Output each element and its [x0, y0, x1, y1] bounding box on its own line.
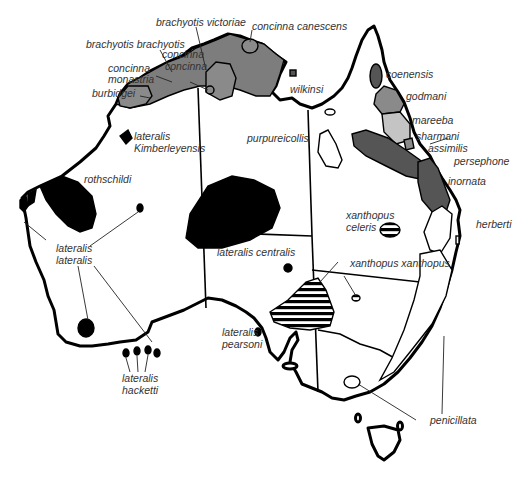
tasmania	[368, 426, 400, 460]
label-xanthopus-xanthopus: xanthopus xanthopus	[349, 257, 451, 269]
region-wilkinsi	[290, 70, 296, 76]
label-lateralis-lateralis-1: lateralis	[56, 242, 93, 254]
label-brachyotis-victoriae: brachyotis victoriae	[156, 16, 246, 28]
label-lateralis-centralis: lateralis centralis	[217, 246, 296, 258]
region-hacketti-2	[134, 347, 140, 355]
label-burbidgei: burbidgei	[92, 87, 136, 99]
region-small-outline	[325, 109, 335, 115]
label-lateralis-kimberleyensis-1: lateralis	[134, 130, 171, 142]
region-lateralis-sw	[78, 319, 94, 337]
island-flinders	[398, 422, 403, 430]
island-kangaroo	[283, 363, 297, 369]
region-hacketti-1	[123, 349, 129, 357]
label-lateralis-hacketti-1: lateralis	[122, 372, 159, 384]
label-lateralis-kimberleyensis-2: Kimberleyensis	[134, 142, 206, 154]
island-king	[356, 414, 361, 422]
label-penicillata: penicillata	[429, 414, 477, 426]
label-wilkinsi: wilkinsi	[290, 83, 324, 95]
region-hacketti-4	[154, 349, 160, 357]
region-penicillata-vic	[344, 376, 360, 388]
region-sharmani	[404, 138, 414, 150]
label-persephone: persephone	[453, 155, 510, 167]
label-herberti: herberti	[476, 218, 512, 230]
australia-distribution-map: brachyotis victoriae concinna canescens …	[0, 0, 528, 486]
label-xanthopus-celeris-2: celeris	[346, 221, 377, 233]
label-mareeba: mareeba	[412, 114, 454, 126]
label-sharmani: sharmani	[416, 130, 460, 142]
region-coenensis	[370, 64, 382, 88]
label-godmani: godmani	[406, 90, 447, 102]
region-xanthopus-celeris	[380, 223, 400, 237]
region-lateralis-small	[137, 204, 143, 212]
region-herberti-small	[456, 236, 459, 244]
label-coenensis: coenensis	[386, 68, 434, 80]
label-inornata: inornata	[448, 175, 486, 187]
label-purpureicollis: purpureicollis	[246, 132, 310, 144]
label-xanthopus-celeris-1: xanthopus	[345, 209, 395, 221]
label-concinna-monastria-2: monastria	[108, 73, 154, 85]
region-hacketti-3	[145, 346, 151, 354]
label-assimilis: assimilis	[428, 142, 468, 154]
label-lateralis-hacketti-2: hacketti	[122, 384, 159, 396]
label-rothschildi: rothschildi	[84, 173, 132, 185]
label-concinna-concinna-2: concinna	[165, 60, 207, 72]
label-lateralis-pearsoni-1: lateralis	[222, 326, 259, 338]
label-concinna-concinna-1: concinna	[162, 48, 204, 60]
label-lateralis-pearsoni-2: pearsoni	[221, 338, 263, 350]
label-lateralis-lateralis-2: lateralis	[56, 254, 93, 266]
label-concinna-canescens: concinna canescens	[252, 20, 348, 32]
region-lateralis-centralis-dot	[284, 264, 292, 272]
